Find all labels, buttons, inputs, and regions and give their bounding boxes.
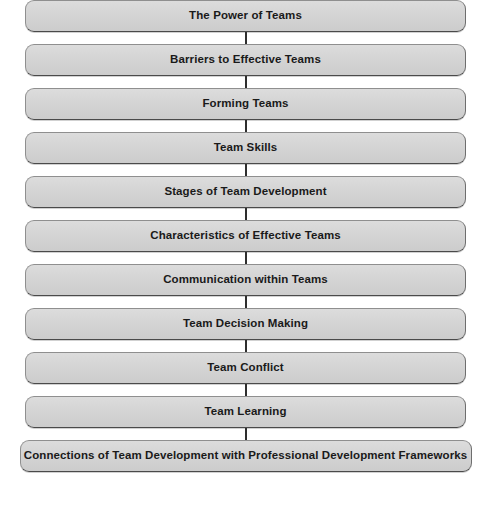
connector-line (245, 340, 247, 352)
flowchart-node-row: Team Learning (0, 396, 491, 428)
flowchart-node-row: Team Skills (0, 132, 491, 164)
flowchart-node-stages-of-team-development[interactable]: Stages of Team Development (25, 176, 466, 208)
connector-line (245, 120, 247, 132)
flowchart-node-barriers-to-effective-teams[interactable]: Barriers to Effective Teams (25, 44, 466, 76)
node-label: Barriers to Effective Teams (162, 54, 329, 66)
flowchart-node-team-skills[interactable]: Team Skills (25, 132, 466, 164)
node-label: Forming Teams (194, 98, 296, 110)
flowchart-node-row: Characteristics of Effective Teams (0, 220, 491, 252)
connector-line (245, 384, 247, 396)
flowchart-node-team-decision-making[interactable]: Team Decision Making (25, 308, 466, 340)
connector-line (245, 76, 247, 88)
node-label: Stages of Team Development (156, 186, 334, 198)
flowchart-node-characteristics-of-effective-teams[interactable]: Characteristics of Effective Teams (25, 220, 466, 252)
flowchart-node-communication-within-teams[interactable]: Communication within Teams (25, 264, 466, 296)
flowchart-diagram: The Power of Teams Barriers to Effective… (0, 0, 491, 511)
connector-line (245, 164, 247, 176)
flowchart-node-row: Team Conflict (0, 352, 491, 384)
flowchart-node-row: Stages of Team Development (0, 176, 491, 208)
flowchart-node-row: Communication within Teams (0, 264, 491, 296)
node-label: Characteristics of Effective Teams (142, 230, 348, 242)
flowchart-node-the-power-of-teams[interactable]: The Power of Teams (25, 0, 466, 32)
flowchart-node-row: Connections of Team Development with Pro… (0, 440, 491, 472)
connector-line (245, 252, 247, 264)
node-label: Connections of Team Development with Pro… (16, 450, 475, 462)
flowchart-node-forming-teams[interactable]: Forming Teams (25, 88, 466, 120)
flowchart-node-row: Barriers to Effective Teams (0, 44, 491, 76)
connector-line (245, 208, 247, 220)
node-label: Team Learning (196, 406, 294, 418)
connector-line (245, 32, 247, 44)
connector-line (245, 428, 247, 440)
node-label: Team Skills (206, 142, 286, 154)
flowchart-node-team-conflict[interactable]: Team Conflict (25, 352, 466, 384)
flowchart-node-connections-of-team-development[interactable]: Connections of Team Development with Pro… (20, 440, 472, 472)
flowchart-node-row: The Power of Teams (0, 0, 491, 32)
node-label: Team Conflict (199, 362, 291, 374)
flowchart-node-team-learning[interactable]: Team Learning (25, 396, 466, 428)
node-label: Team Decision Making (175, 318, 316, 330)
flowchart-node-row: Team Decision Making (0, 308, 491, 340)
node-label: Communication within Teams (155, 274, 336, 286)
flowchart-node-row: Forming Teams (0, 88, 491, 120)
node-label: The Power of Teams (181, 10, 310, 22)
connector-line (245, 296, 247, 308)
